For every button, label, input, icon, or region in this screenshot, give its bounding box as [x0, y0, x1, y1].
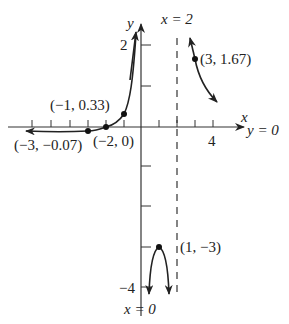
point-label-1: (1, −3) — [180, 240, 221, 255]
asymptote-label-x2: x = 2 — [161, 12, 193, 27]
point-label-3: (3, 1.67) — [200, 52, 251, 67]
point-label-neg2: (−2, 0) — [93, 134, 134, 149]
tick-label-y2: 2 — [120, 38, 128, 53]
tick-label-yneg4: −4 — [119, 281, 135, 296]
graph-figure: y 2 x = 2 (3, 1.67) (−1, 0.33) (−3, −0.0… — [0, 0, 289, 324]
asymptote-label-y0: y = 0 — [247, 123, 279, 138]
x-axis — [8, 120, 244, 127]
point-label-neg3: (−3, −0.07) — [14, 138, 82, 153]
point-label-neg1: (−1, 0.33) — [50, 98, 110, 113]
y-axis — [141, 24, 151, 316]
asymptote-label-x0: x = 0 — [124, 302, 156, 317]
graph-canvas — [0, 0, 289, 324]
tick-label-x4: 4 — [208, 134, 216, 149]
y-axis-label: y — [127, 16, 134, 31]
